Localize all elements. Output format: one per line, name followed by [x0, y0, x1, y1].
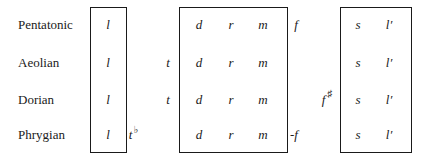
box-sl-columns	[340, 7, 412, 153]
note-m: m	[258, 17, 267, 33]
note-t-dorian: t	[166, 92, 170, 108]
note-l-pentatonic: l	[106, 17, 110, 33]
note-l-phrygian: l	[106, 127, 110, 143]
note-l-aeolian: l	[106, 55, 110, 71]
flat-icon: ♭	[133, 124, 138, 135]
note-t-aeolian: t	[166, 55, 170, 71]
mode-label-dorian: Dorian	[18, 92, 54, 108]
note-f-pentatonic: f	[294, 17, 298, 33]
note-m: m	[258, 55, 267, 71]
mode-label-pentatonic: Pentatonic	[18, 17, 73, 33]
note-s: s	[355, 127, 360, 143]
mode-label-aeolian: Aeolian	[18, 55, 59, 71]
note-t-flat-phrygian: t♭	[129, 127, 137, 143]
note-l-high: l′	[386, 127, 392, 143]
note-r: r	[228, 92, 233, 108]
note-l-dorian: l	[106, 92, 110, 108]
note-m: m	[258, 127, 267, 143]
note-l-high: l′	[386, 55, 392, 71]
note-r: r	[228, 55, 233, 71]
note-m: m	[258, 92, 267, 108]
note-s: s	[355, 17, 360, 33]
note-l-high: l′	[386, 17, 392, 33]
note-d: d	[196, 127, 203, 143]
note-s: s	[355, 92, 360, 108]
note-f-phrygian: -f	[290, 127, 298, 143]
note-r: r	[228, 127, 233, 143]
note-s: s	[355, 55, 360, 71]
note-d: d	[196, 92, 203, 108]
mode-label-phrygian: Phrygian	[18, 127, 65, 143]
sharp-icon: ♯	[327, 88, 332, 99]
note-l-high: l′	[386, 92, 392, 108]
note-r: r	[228, 17, 233, 33]
note-f-sharp-dorian: f♯	[322, 92, 331, 108]
note-d: d	[196, 17, 203, 33]
note-d: d	[196, 55, 203, 71]
